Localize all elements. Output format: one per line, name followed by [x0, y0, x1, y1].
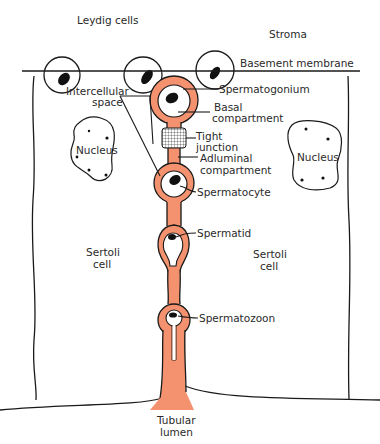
label-space: space	[92, 96, 123, 108]
label-leydig-cells: Leydig cells	[77, 14, 138, 26]
spermatocyte-cell	[161, 171, 187, 197]
tight-junction	[162, 128, 186, 148]
sertoli-left-wall	[32, 76, 36, 400]
label-sertoli-left: Sertoli	[86, 246, 120, 258]
label-adluminal-compartment: compartment	[200, 164, 271, 176]
label-sertoli-right-cell: cell	[260, 260, 278, 272]
label-sertoli-right: Sertoli	[253, 248, 287, 260]
label-basement-membrane: Basement membrane	[240, 57, 354, 69]
label-adluminal: Adluminal	[200, 152, 252, 164]
label-spermatogonium: Spermatogonium	[219, 83, 310, 95]
label-tubular: Tubular	[157, 414, 195, 426]
label-stroma: Stroma	[269, 28, 307, 40]
label-sertoli-left-cell: cell	[93, 258, 111, 270]
label-basal-compartment: compartment	[212, 112, 283, 124]
label-spermatocyte: Spermatocyte	[197, 186, 271, 198]
label-lumen: lumen	[160, 426, 193, 438]
label-nucleus-left: Nucleus	[76, 144, 118, 156]
label-spermatid: Spermatid	[197, 227, 251, 239]
sertoli-right-wall	[348, 76, 350, 400]
label-spermatozoon: Spermatozoon	[199, 312, 275, 324]
label-nucleus-right: Nucleus	[297, 151, 339, 163]
